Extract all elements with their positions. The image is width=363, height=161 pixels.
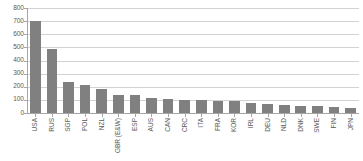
bar[interactable]	[295, 106, 306, 113]
y-axis-tick	[24, 113, 27, 114]
x-axis-label-slot: FRA	[210, 114, 227, 161]
x-axis-label-slot: POL	[77, 114, 94, 161]
x-axis-tick-label: KOR	[231, 118, 238, 132]
bar[interactable]	[163, 99, 174, 113]
x-axis-label-slot: RUS	[44, 114, 61, 161]
bar-slot	[44, 8, 61, 113]
x-axis-tick	[168, 114, 169, 117]
y-axis-tick-label: 500	[2, 44, 24, 51]
bar[interactable]	[130, 95, 141, 113]
bar[interactable]	[329, 107, 340, 113]
bar-slot	[110, 8, 127, 113]
x-axis-tick-label: USA	[32, 118, 39, 131]
x-axis-tick-label: POL	[82, 118, 89, 131]
bar[interactable]	[312, 106, 323, 113]
bar[interactable]	[30, 21, 41, 113]
x-axis-tick-label: SGP	[65, 118, 72, 132]
y-axis-tick	[24, 47, 27, 48]
bar-slot	[326, 8, 343, 113]
bar-slot	[160, 8, 177, 113]
bar-slot	[210, 8, 227, 113]
bar[interactable]	[96, 89, 107, 113]
x-axis-tick	[251, 114, 252, 117]
bar[interactable]	[279, 105, 290, 113]
x-axis-label-slot: FIN	[326, 114, 343, 161]
bar-slot	[226, 8, 243, 113]
x-axis-tick-label: FRA	[215, 118, 222, 131]
bar[interactable]	[246, 103, 257, 114]
x-axis-tick	[351, 114, 352, 117]
x-axis-tick	[334, 114, 335, 117]
x-axis-tick-labels: USARUSSGPPOLNZLGBR (E&W)ESPAUSCANCRCITAF…	[27, 114, 359, 161]
x-axis-tick	[201, 114, 202, 117]
x-axis-label-slot: DNK	[293, 114, 310, 161]
x-axis-label-slot: CAN	[160, 114, 177, 161]
x-axis-tick-label: DEU	[264, 118, 271, 132]
x-axis-tick-label: RUS	[49, 118, 56, 132]
y-axis-tick	[24, 74, 27, 75]
x-axis-tick-label: AUS	[148, 118, 155, 131]
bar[interactable]	[262, 104, 273, 113]
x-axis-tick	[135, 114, 136, 117]
x-axis-tick	[85, 114, 86, 117]
y-axis-tick	[24, 8, 27, 9]
bar[interactable]	[179, 100, 190, 113]
bar-slot	[259, 8, 276, 113]
x-axis-tick	[317, 114, 318, 117]
bar[interactable]	[113, 95, 124, 113]
y-axis-tick-label: 600	[2, 31, 24, 38]
y-axis-tick-label: 700	[2, 18, 24, 25]
y-axis-tick-label: 200	[2, 83, 24, 90]
bar[interactable]	[146, 98, 157, 113]
bar-slot	[77, 8, 94, 113]
x-axis-tick-label: SWE	[314, 118, 321, 133]
x-axis-tick-label: NZL	[98, 118, 105, 130]
x-axis-tick	[118, 114, 119, 117]
y-axis-tick-label: 100	[2, 96, 24, 103]
bar-slot	[127, 8, 144, 113]
x-axis-label-slot: ITA	[193, 114, 210, 161]
x-axis-label-slot: IRL	[243, 114, 260, 161]
bar[interactable]	[47, 49, 58, 113]
bar[interactable]	[229, 101, 240, 113]
x-axis-label-slot: AUS	[143, 114, 160, 161]
x-axis-label-slot: NLD	[276, 114, 293, 161]
bar-series	[27, 8, 359, 113]
y-axis-tick-label: 300	[2, 70, 24, 77]
y-axis-tick	[24, 21, 27, 22]
bar-slot	[27, 8, 44, 113]
bar-slot	[60, 8, 77, 113]
bar[interactable]	[63, 82, 74, 113]
y-axis-tick-label: 0	[2, 110, 24, 117]
x-axis-tick	[268, 114, 269, 117]
bar[interactable]	[80, 85, 91, 113]
x-axis-tick-label: CAN	[165, 118, 172, 132]
bar[interactable]	[345, 108, 356, 113]
bar-slot	[243, 8, 260, 113]
x-axis-tick-label: JPN	[347, 118, 354, 130]
x-axis-tick	[151, 114, 152, 117]
x-axis-label-slot: ESP	[127, 114, 144, 161]
x-axis-tick	[218, 114, 219, 117]
x-axis-tick	[102, 114, 103, 117]
x-axis-tick-label: NLD	[281, 118, 288, 131]
x-axis-label-slot: DEU	[259, 114, 276, 161]
bar[interactable]	[196, 100, 207, 113]
bar[interactable]	[213, 101, 224, 113]
y-axis-tick-label: 400	[2, 57, 24, 64]
x-axis-label-slot: KOR	[226, 114, 243, 161]
x-axis-tick	[52, 114, 53, 117]
x-axis-label-slot: CRC	[176, 114, 193, 161]
x-axis-tick-label: DNK	[298, 118, 305, 132]
bar-slot	[193, 8, 210, 113]
y-axis-tick-label: 800	[2, 5, 24, 12]
x-axis-tick-label: ITA	[198, 118, 205, 128]
bar-chart: USARUSSGPPOLNZLGBR (E&W)ESPAUSCANCRCITAF…	[0, 0, 363, 161]
y-axis-tick	[24, 61, 27, 62]
x-axis-tick-label: CRC	[181, 118, 188, 132]
x-axis-tick	[301, 114, 302, 117]
bar-slot	[176, 8, 193, 113]
bar-slot	[93, 8, 110, 113]
bar-slot	[342, 8, 359, 113]
x-axis-label-slot: SGP	[60, 114, 77, 161]
